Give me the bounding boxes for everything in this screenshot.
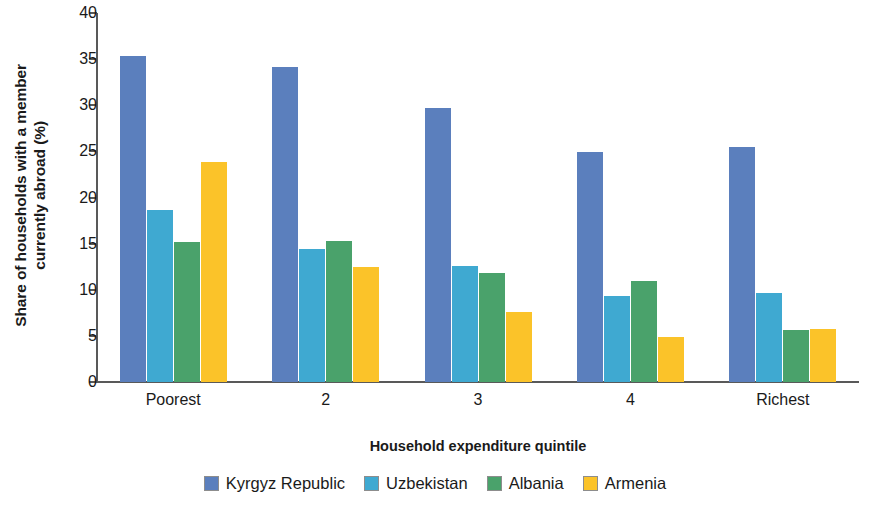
- bar-kyrgyz-republic[interactable]: [272, 67, 298, 382]
- bar-group: 4: [554, 13, 706, 382]
- y-axis-title: Share of households with a member curren…: [0, 0, 60, 390]
- bar-armenia[interactable]: [201, 162, 227, 382]
- y-tick-label: 15: [79, 235, 97, 253]
- bar-kyrgyz-republic[interactable]: [729, 147, 755, 382]
- x-tick-label: 2: [249, 391, 401, 409]
- legend-item-uzbekistan[interactable]: Uzbekistan: [364, 474, 468, 493]
- legend-label: Kyrgyz Republic: [226, 474, 345, 493]
- bar-armenia[interactable]: [810, 329, 836, 382]
- legend-swatch-icon: [487, 476, 502, 491]
- chart-legend: Kyrgyz RepublicUzbekistanAlbaniaArmenia: [0, 474, 870, 493]
- y-tick-label: 0: [88, 373, 97, 391]
- bar-albania[interactable]: [326, 241, 352, 382]
- legend-label: Uzbekistan: [386, 474, 468, 493]
- bar-groups: Poorest234Richest: [97, 13, 859, 382]
- x-axis-title: Household expenditure quintile: [97, 438, 859, 454]
- bar-group: Poorest: [97, 13, 249, 382]
- bar-armenia[interactable]: [658, 337, 684, 382]
- legend-swatch-icon: [364, 476, 379, 491]
- bar-chart-figure: Share of households with a member curren…: [0, 0, 870, 508]
- bar-uzbekistan[interactable]: [604, 296, 630, 382]
- bar-group: Richest: [707, 13, 859, 382]
- x-tick-label: Poorest: [97, 391, 249, 409]
- legend-swatch-icon: [583, 476, 598, 491]
- legend-item-armenia[interactable]: Armenia: [583, 474, 666, 493]
- x-tick-label: 4: [554, 391, 706, 409]
- bar-armenia[interactable]: [353, 267, 379, 382]
- bar-albania[interactable]: [174, 242, 200, 382]
- bar-kyrgyz-republic[interactable]: [577, 152, 603, 382]
- bar-kyrgyz-republic[interactable]: [425, 108, 451, 382]
- x-tick-label: 3: [402, 391, 554, 409]
- y-tick-label: 5: [88, 327, 97, 345]
- y-axis-title-line1: Share of households with a member: [12, 64, 29, 327]
- y-tick-label: 20: [79, 189, 97, 207]
- legend-item-albania[interactable]: Albania: [487, 474, 564, 493]
- y-tick-label: 10: [79, 281, 97, 299]
- bar-group: 3: [402, 13, 554, 382]
- legend-swatch-icon: [204, 476, 219, 491]
- legend-label: Albania: [509, 474, 564, 493]
- bar-uzbekistan[interactable]: [452, 266, 478, 382]
- legend-label: Armenia: [605, 474, 666, 493]
- y-axis-title-line2: currently abroad (%): [31, 121, 48, 270]
- plot-area: 0510152025303540 Poorest234Richest: [97, 13, 859, 382]
- bar-uzbekistan[interactable]: [756, 293, 782, 382]
- bar-albania[interactable]: [783, 330, 809, 382]
- bar-group: 2: [249, 13, 401, 382]
- bar-kyrgyz-republic[interactable]: [120, 56, 146, 382]
- y-tick-label: 25: [79, 142, 97, 160]
- bar-uzbekistan[interactable]: [299, 249, 325, 382]
- bar-uzbekistan[interactable]: [147, 210, 173, 382]
- y-tick-label: 35: [79, 50, 97, 68]
- y-tick-label: 40: [79, 4, 97, 22]
- bar-armenia[interactable]: [506, 312, 532, 382]
- bar-albania[interactable]: [631, 281, 657, 382]
- bar-albania[interactable]: [479, 273, 505, 382]
- x-tick-label: Richest: [707, 391, 859, 409]
- y-tick-label: 30: [79, 96, 97, 114]
- legend-item-kyrgyz-republic[interactable]: Kyrgyz Republic: [204, 474, 345, 493]
